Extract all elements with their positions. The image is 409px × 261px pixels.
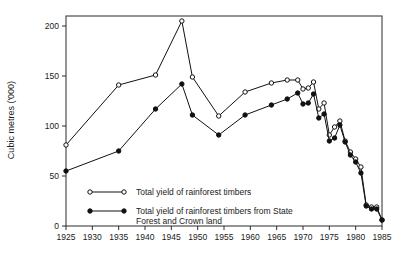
data-point: [317, 116, 321, 120]
y-axis-title: Cubic metres ('000): [6, 81, 16, 159]
legend-label-line2: Forest and Crown land: [136, 216, 222, 226]
data-point: [296, 91, 300, 95]
data-point: [343, 140, 347, 144]
x-tick-label: 1975: [320, 232, 339, 242]
y-tick-label: 50: [50, 171, 60, 181]
data-point: [64, 143, 68, 147]
data-point: [311, 92, 315, 96]
data-point: [116, 149, 120, 153]
data-point: [180, 82, 184, 86]
y-tick-label: 100: [45, 121, 59, 131]
legend-marker: [88, 190, 92, 194]
data-point: [375, 207, 379, 211]
data-point: [269, 81, 273, 85]
data-point: [153, 107, 157, 111]
data-point: [322, 112, 326, 116]
data-point: [285, 78, 289, 82]
data-point: [190, 75, 194, 79]
data-point: [296, 78, 300, 82]
x-tick-label: 1930: [83, 232, 102, 242]
x-tick-label: 1955: [215, 232, 234, 242]
x-tick-label: 1965: [267, 232, 286, 242]
data-point: [364, 204, 368, 208]
data-point: [243, 113, 247, 117]
x-tick-label: 1935: [109, 232, 128, 242]
data-point: [338, 123, 342, 127]
data-point: [217, 114, 221, 118]
data-point: [332, 125, 336, 129]
data-point: [301, 102, 305, 106]
rainforest-timber-yield-line-chart: 050100150200 192519301935194019451950195…: [0, 0, 409, 261]
data-point: [153, 73, 157, 77]
data-point: [306, 101, 310, 105]
data-point: [369, 207, 373, 211]
y-tick-label: 150: [45, 71, 59, 81]
data-point: [332, 136, 336, 140]
legend-label: Total yield of rainforest timbers from S…: [136, 206, 293, 216]
x-tick-label: 1960: [241, 232, 260, 242]
data-point: [359, 165, 363, 169]
data-point: [116, 83, 120, 87]
data-point: [353, 160, 357, 164]
x-tick-label: 1985: [373, 232, 392, 242]
legend-marker: [88, 209, 92, 213]
legend-marker: [122, 209, 126, 213]
data-point: [327, 139, 331, 143]
y-tick-label: 0: [54, 221, 59, 231]
x-tick-label: 1980: [346, 232, 365, 242]
data-point: [269, 103, 273, 107]
chart-container: 050100150200 192519301935194019451950195…: [0, 0, 409, 261]
data-point: [348, 153, 352, 157]
data-point: [243, 90, 247, 94]
data-point: [380, 218, 384, 222]
data-point: [217, 133, 221, 137]
x-tick-label: 1950: [188, 232, 207, 242]
x-tick-label: 1925: [57, 232, 76, 242]
data-point: [301, 87, 305, 91]
legend-label: Total yield of rainforest timbers: [136, 187, 251, 197]
y-tick-label: 200: [45, 21, 59, 31]
data-point: [64, 169, 68, 173]
x-tick-label: 1940: [136, 232, 155, 242]
data-point: [180, 19, 184, 23]
data-point: [306, 86, 310, 90]
data-point: [359, 171, 363, 175]
data-point: [285, 97, 289, 101]
data-point: [322, 101, 326, 105]
x-tick-label: 1945: [162, 232, 181, 242]
data-point: [311, 80, 315, 84]
legend-marker: [122, 190, 126, 194]
data-point: [190, 113, 194, 117]
x-tick-label: 1970: [294, 232, 313, 242]
